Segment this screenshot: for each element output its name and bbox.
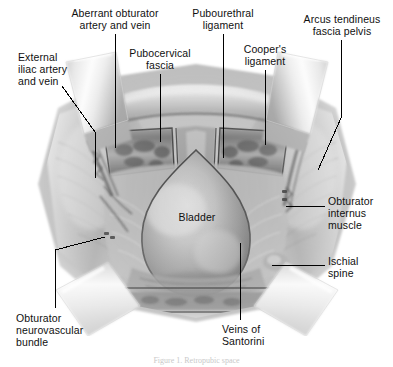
label-coopers-ligament: Cooper's ligament: [233, 44, 297, 68]
label-arcus-tendineus-fascia-pelvis: Arcus tendineus fascia pelvis: [292, 14, 392, 38]
label-obturator-internus-muscle: Obturator internus muscle: [328, 196, 393, 231]
label-pubocervical-fascia: Pubocervical fascia: [118, 48, 202, 72]
label-ischial-spine: Ischial spine: [328, 256, 388, 280]
label-external-iliac-artery-and-vein: External iliac artery and vein: [18, 52, 98, 87]
anatomical-figure: Aberrant obturator artery and veinPubour…: [0, 0, 393, 367]
label-bladder: Bladder: [152, 212, 242, 224]
figure-caption: Figure 1. Retropubic space: [0, 356, 393, 367]
label-obturator-neurovascular-bundle: Obturator neurovascular bundle: [16, 313, 108, 348]
label-pubourethral-ligament: Pubourethral ligament: [178, 8, 268, 32]
label-veins-of-santorini: Veins of Santorini: [222, 324, 294, 348]
label-aberrant-obturator-artery-and-vein: Aberrant obturator artery and vein: [50, 8, 180, 32]
